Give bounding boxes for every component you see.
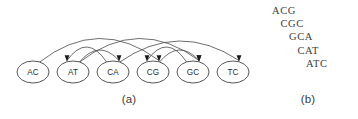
nodes-layer: ACATCACGGCTC: [17, 61, 249, 83]
graph-node-tc[interactable]: TC: [217, 61, 249, 83]
sequence-line: ATC: [258, 57, 358, 70]
arrowhead-tc: [237, 55, 242, 61]
node-label-ca: CA: [107, 68, 119, 77]
sequence-line: ACG: [258, 4, 358, 17]
node-label-gc: GC: [187, 68, 199, 77]
sequence-list: ACGCGCGCACATATC: [258, 4, 358, 70]
node-label-tc: TC: [228, 68, 239, 77]
node-label-at: AT: [68, 68, 78, 77]
node-label-cg: CG: [147, 68, 159, 77]
de-bruijn-graph-svg: ACATCACGGCTC: [0, 0, 258, 92]
edge-ac-to-cg: [39, 38, 159, 62]
caption-a: (a): [0, 93, 258, 105]
graph-node-at[interactable]: AT: [57, 61, 89, 83]
sequence-line: GCA: [258, 30, 358, 43]
panel-a-graph: ACATCACGGCTC (a): [0, 0, 258, 119]
edges-layer: [39, 38, 241, 62]
edge-ca-to-tc: [119, 41, 239, 63]
sequence-line: CGC: [258, 17, 358, 30]
node-label-ac: AC: [27, 68, 38, 77]
graph-node-ca[interactable]: CA: [97, 61, 129, 83]
sequence-line: CAT: [258, 44, 358, 57]
figure-container: ACATCACGGCTC (a) ACGCGCGCACATATC (b): [0, 0, 358, 119]
graph-node-cg[interactable]: CG: [137, 61, 169, 83]
caption-b: (b): [258, 93, 358, 105]
graph-node-ac[interactable]: AC: [17, 61, 49, 83]
graph-node-gc[interactable]: GC: [177, 61, 209, 83]
panel-b-sequences: ACGCGCGCACATATC (b): [258, 0, 358, 119]
